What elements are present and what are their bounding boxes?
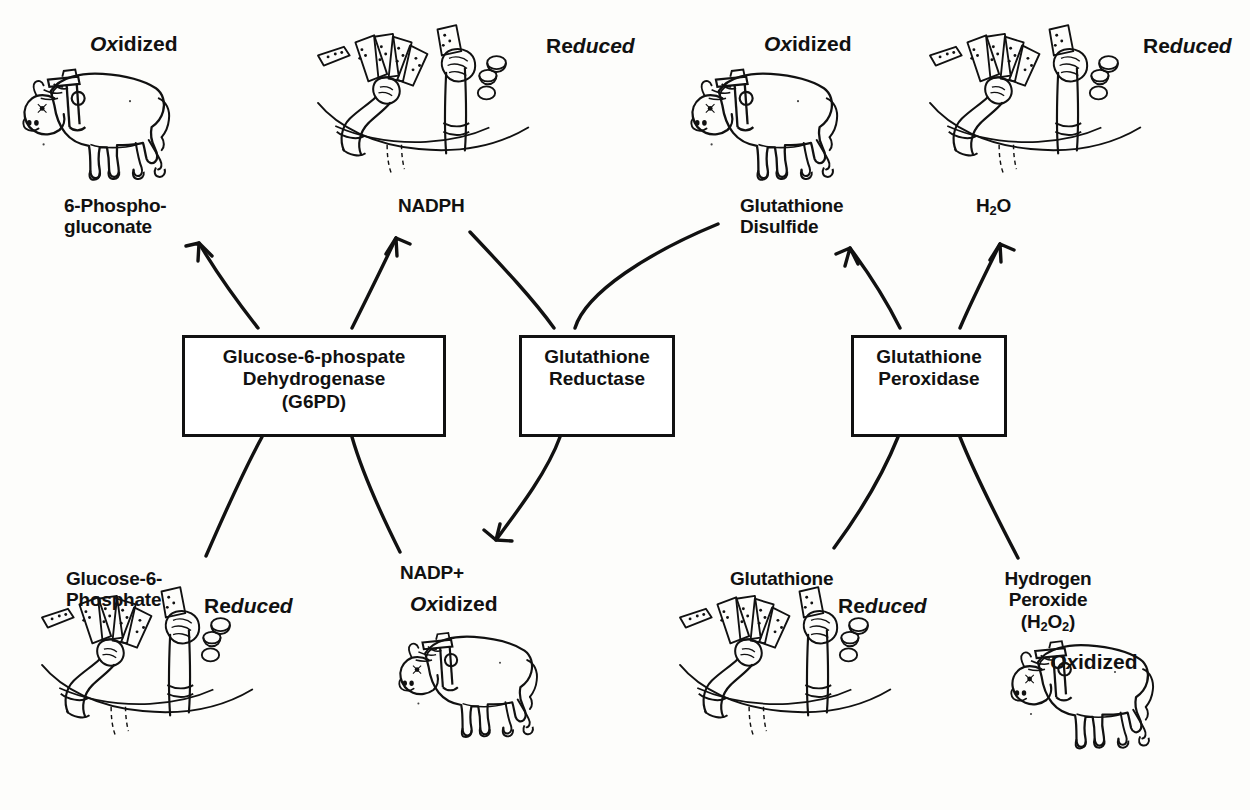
enzyme-label-glutathione-reductase: Glutathione Reductase — [544, 346, 650, 391]
state-label-oxidized-top-gssg: Oxidized — [764, 32, 852, 56]
state-label-oxidized-bottom-nadp: Oxidized — [410, 592, 498, 616]
state-label-reduced-top-nadph: Reduced — [546, 34, 635, 58]
arrow-glutathione-to-glutathione-peroxidase — [834, 437, 898, 548]
enzyme-label-g6pd: Glucose-6-phospate Dehydrogenase (G6PD) — [223, 346, 406, 413]
arrow-hydrogen-peroxide-to-glutathione-peroxidase — [960, 437, 1018, 558]
arrow-glutathione-peroxidase-to-glutathione-disulfide — [836, 248, 900, 328]
state-label-reduced-top-water: Reduced — [1143, 34, 1232, 58]
enzyme-box-glutathione-peroxidase[interactable]: Glutathione Peroxidase — [851, 335, 1007, 437]
metabolite-water: H2O — [976, 195, 1011, 218]
metabolite-nadph: NADPH — [398, 195, 465, 216]
state-label-reduced-bottom-gsh: Reduced — [838, 594, 927, 618]
arrow-glutathione-reductase-to-glutathione — [484, 437, 560, 541]
diagram-canvas: Oxidized Reduced Oxidized Reduced Reduce… — [0, 0, 1250, 810]
arrow-nadph-to-glutathione-reductase — [470, 232, 554, 328]
arrow-glutathione-peroxidase-to-water — [960, 244, 1014, 328]
enzyme-label-glutathione-peroxidase: Glutathione Peroxidase — [876, 346, 982, 391]
enzyme-box-g6pd[interactable]: Glucose-6-phospate Dehydrogenase (G6PD) — [182, 335, 446, 437]
state-label-oxidized-top-left: Oxidized — [90, 32, 178, 56]
arrow-g6pd-to-nadph — [352, 238, 410, 328]
metabolite-6-phosphogluconate: 6-Phospho- gluconate — [64, 195, 167, 238]
arrow-g6pd-to-nadp-plus — [352, 437, 400, 552]
arrow-glutathione-reductase-to-glutathione-disulfide — [575, 224, 718, 328]
arrow-g6pd-to-6-phosphogluconate — [186, 243, 258, 328]
state-label-oxidized-bottom-h2o2: Oxidized — [1050, 650, 1138, 674]
metabolite-nadp-plus: NADP+ — [400, 562, 464, 583]
metabolite-hydrogen-peroxide: HydrogenPeroxide(H2O2) — [986, 568, 1110, 634]
metabolite-glutathione: Glutathione — [730, 568, 833, 589]
state-label-reduced-bottom-g6p: Reduced — [204, 594, 293, 618]
enzyme-box-glutathione-reductase[interactable]: Glutathione Reductase — [519, 335, 675, 437]
metabolite-glutathione-disulfide: Glutathione Disulfide — [740, 195, 843, 238]
metabolite-glucose-6-phosphate: Glucose-6- Phosphate — [66, 568, 162, 611]
arrow-glucose-6-phosphate-to-g6pd — [206, 437, 262, 556]
